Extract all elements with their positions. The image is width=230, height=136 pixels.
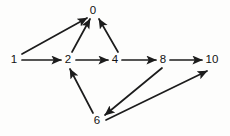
graph-node-10: 10 <box>205 53 218 65</box>
directed-graph-figure: 01246810 <box>0 0 230 136</box>
graph-node-4: 4 <box>112 53 119 65</box>
graph-node-0: 0 <box>90 4 97 16</box>
graph-edge-1-to-0 <box>22 18 87 54</box>
graph-node-6: 6 <box>94 114 101 126</box>
graph-edge-8-to-6 <box>105 68 162 115</box>
graph-node-8: 8 <box>160 53 167 65</box>
graph-node-2: 2 <box>65 53 72 65</box>
graph-edge-6-to-2 <box>70 69 93 113</box>
graph-canvas: 01246810 <box>0 0 230 136</box>
graph-edge-4-to-0 <box>99 19 118 52</box>
graph-node-1: 1 <box>11 53 18 65</box>
edge-layer <box>22 18 207 120</box>
graph-edge-6-to-10 <box>106 71 207 120</box>
